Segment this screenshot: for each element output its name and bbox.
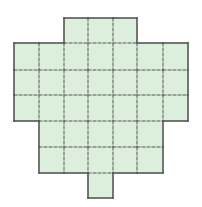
grid-cell (137, 95, 163, 121)
grid-shape-diagram (0, 0, 202, 207)
grid-cell (113, 43, 137, 70)
grid-cell (64, 121, 88, 147)
grid-cell (64, 43, 88, 70)
grid-cell (39, 43, 64, 70)
grid-cell (163, 70, 188, 95)
grid-cell (39, 95, 64, 121)
grid-cell (39, 147, 64, 173)
grid-cells (14, 18, 188, 198)
grid-cell (14, 70, 39, 95)
grid-cell (64, 147, 88, 173)
grid-cell (64, 18, 88, 43)
grid-cell (64, 95, 88, 121)
grid-cell (113, 121, 137, 147)
grid-cell (163, 43, 188, 70)
grid-cell (88, 43, 113, 70)
grid-cell (14, 43, 39, 70)
grid-cell (39, 121, 64, 147)
grid-cell (137, 43, 163, 70)
grid-cell (14, 95, 39, 121)
grid-cell (113, 147, 137, 173)
grid-cell (88, 147, 113, 173)
grid-cell (137, 147, 163, 173)
grid-cell (113, 95, 137, 121)
grid-cell (88, 173, 113, 198)
grid-cell (64, 70, 88, 95)
grid-cell (113, 70, 137, 95)
grid-cell (163, 95, 188, 121)
grid-cell (88, 121, 113, 147)
grid-cell (88, 70, 113, 95)
grid-cell (88, 18, 113, 43)
grid-cell (137, 121, 163, 147)
grid-cell (137, 70, 163, 95)
grid-cell (39, 70, 64, 95)
grid-cell (113, 18, 137, 43)
grid-cell (88, 95, 113, 121)
